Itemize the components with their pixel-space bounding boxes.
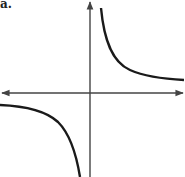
curve-branch-q3 [0,105,80,177]
curve-branch-q1 [101,8,184,80]
hyperbola-graph [0,0,185,177]
